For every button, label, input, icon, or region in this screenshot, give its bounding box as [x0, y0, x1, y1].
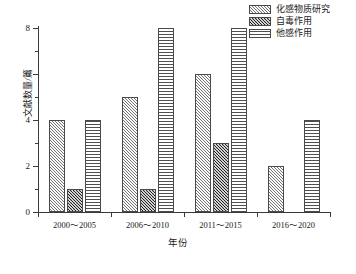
bar-1-1 [140, 189, 156, 212]
x-tick-3 [257, 213, 258, 217]
legend-swatch-allelochemical-research-icon [249, 5, 271, 14]
legend-label-1: 自毒作用 [276, 16, 312, 26]
legend-label-0: 化感物质研究 [276, 4, 330, 14]
plot-area [38, 28, 330, 212]
bar-0-1 [67, 189, 83, 212]
legend-swatch-autotoxicity-icon [249, 17, 271, 26]
x-tick-label-2: 2011～2015 [199, 220, 242, 230]
y-tick-label-0: 0 [8, 208, 30, 217]
x-tick-label-1: 2006～2010 [126, 220, 169, 230]
bar-3-2 [304, 120, 320, 212]
bar-chart-figure: 化感物质研究 自毒作用 他感作用 02468 2000～20052006～201… [0, 0, 356, 274]
y-axis-title: 文献数量/篇 [23, 43, 33, 143]
x-axis-title: 年份 [0, 238, 356, 249]
bar-2-0 [195, 74, 211, 212]
x-tick-1 [111, 213, 112, 217]
x-tick-label-3: 2016～2020 [272, 220, 315, 230]
legend-item-0: 化感物质研究 [249, 3, 353, 15]
bar-2-1 [213, 143, 229, 212]
x-tick-end [330, 213, 331, 217]
bar-0-2 [85, 120, 101, 212]
y-tick-label-8: 8 [8, 24, 30, 33]
x-tick-2 [184, 213, 185, 217]
bar-0-0 [49, 120, 65, 212]
legend-item-1: 自毒作用 [249, 15, 353, 27]
x-tick-label-0: 2000～2005 [53, 220, 96, 230]
x-tick-0 [38, 213, 39, 217]
bar-3-0 [268, 166, 284, 212]
bar-2-2 [231, 28, 247, 212]
bar-1-0 [122, 97, 138, 212]
y-tick-label-2: 2 [8, 162, 30, 171]
bar-1-2 [158, 28, 174, 212]
